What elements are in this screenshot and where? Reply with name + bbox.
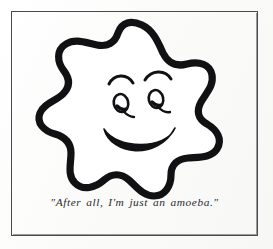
cartoon-caption: "After all, I'm just an amoeba." — [11, 196, 258, 208]
amoeba-body — [39, 22, 219, 196]
cartoon-page: "After all, I'm just an amoeba." — [0, 0, 273, 249]
